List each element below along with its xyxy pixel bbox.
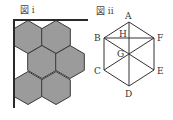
- point-label-H: H: [119, 29, 127, 39]
- point-label-G: G: [117, 49, 124, 59]
- point-label-D: D: [125, 89, 132, 99]
- figure-ii: ABCDEFGH 図 ii: [94, 6, 164, 99]
- point-label-B: B: [94, 33, 101, 43]
- point-label-F: F: [157, 33, 163, 43]
- diagram-canvas: 図 i ABCDEFGH 図 ii: [0, 0, 173, 120]
- point-label-A: A: [124, 11, 132, 21]
- hexagon-with-diagonals: [104, 22, 154, 86]
- figure-i: 図 i: [14, 5, 88, 108]
- point-label-E: E: [157, 66, 164, 76]
- figure-i-label: 図 i: [20, 5, 35, 15]
- hexagon-tiling: [14, 21, 85, 105]
- point-label-C: C: [94, 66, 101, 76]
- figure-ii-label: 図 ii: [96, 6, 114, 16]
